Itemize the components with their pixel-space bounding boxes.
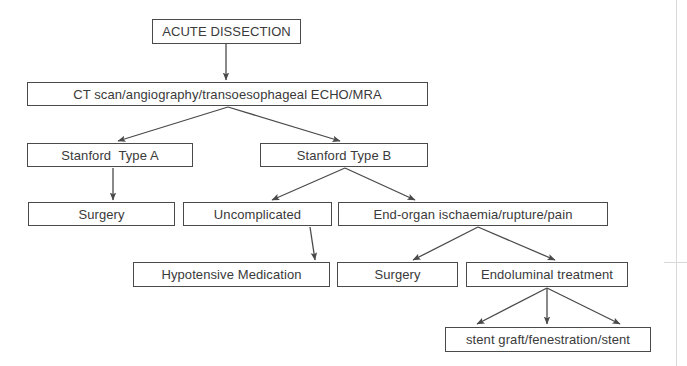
node-stanford-type-b: Stanford Type B <box>260 143 428 167</box>
node-imaging: CT scan/angiography/transoesophageal ECH… <box>27 82 428 106</box>
edge-stanford-type-b-to-end-organ-ischaemia <box>345 168 415 200</box>
node-label-uncomplicated: Uncomplicated <box>214 208 301 221</box>
edge-uncomplicated-to-hypotensive-medication <box>310 227 315 260</box>
flowchart-canvas: ACUTE DISSECTIONCT scan/angiography/tran… <box>0 0 687 366</box>
node-surgery-type-a: Surgery <box>28 202 175 226</box>
node-label-imaging: CT scan/angiography/transoesophageal ECH… <box>73 88 381 101</box>
node-label-stanford-type-a: Stanford Type A <box>61 149 158 162</box>
scan-artifact-lower-right-rule <box>664 262 687 263</box>
node-hypotensive-medication: Hypotensive Medication <box>133 262 330 287</box>
node-surgery-end-organ: Surgery <box>337 262 458 287</box>
scan-artifact-right-margin-rule <box>676 0 677 366</box>
node-label-stanford-type-b: Stanford Type B <box>297 149 392 162</box>
flowchart-edges <box>0 0 687 366</box>
node-uncomplicated: Uncomplicated <box>183 202 332 226</box>
edge-end-organ-ischaemia-to-endoluminal-treatment <box>478 227 555 260</box>
node-label-end-organ-ischaemia: End-organ ischaemia/rupture/pain <box>373 208 572 221</box>
edge-stanford-type-b-to-uncomplicated <box>272 168 345 200</box>
node-label-stent-graft: stent graft/fenestration/stent <box>466 333 630 346</box>
edge-imaging-to-stanford-type-a <box>118 107 228 141</box>
node-end-organ-ischaemia: End-organ ischaemia/rupture/pain <box>338 202 608 226</box>
node-label-surgery-type-a: Surgery <box>78 208 124 221</box>
edge-imaging-to-stanford-type-b <box>228 107 340 141</box>
edge-end-organ-ischaemia-to-surgery-end-organ <box>413 227 478 260</box>
edge-endoluminal-treatment-to-stent-graft <box>477 288 547 324</box>
node-label-acute-dissection: ACUTE DISSECTION <box>162 25 291 38</box>
node-stanford-type-a: Stanford Type A <box>27 143 193 167</box>
node-stent-graft: stent graft/fenestration/stent <box>445 327 651 352</box>
edge-endoluminal-treatment-to-stent-graft <box>547 288 620 324</box>
node-endoluminal-treatment: Endoluminal treatment <box>466 262 628 287</box>
node-label-endoluminal-treatment: Endoluminal treatment <box>481 268 613 281</box>
node-acute-dissection: ACUTE DISSECTION <box>152 19 301 44</box>
node-label-hypotensive-medication: Hypotensive Medication <box>161 268 301 281</box>
node-label-surgery-end-organ: Surgery <box>374 268 420 281</box>
